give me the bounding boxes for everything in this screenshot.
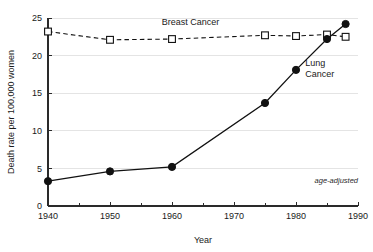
y-tick-label: 15 — [32, 88, 42, 98]
x-tick-label: 1970 — [224, 211, 244, 221]
x-tick-label: 1960 — [162, 211, 182, 221]
data-point — [169, 36, 176, 43]
x-tick-label: 1980 — [286, 211, 306, 221]
x-tick-marks — [48, 202, 358, 206]
series-line — [48, 24, 346, 181]
data-point — [323, 35, 330, 42]
series-lung-cancer — [44, 20, 349, 184]
data-point — [292, 66, 299, 73]
y-tick-label: 25 — [32, 13, 42, 23]
data-point — [107, 36, 114, 43]
series-annotation: Cancer — [305, 69, 334, 79]
axes — [48, 18, 358, 206]
y-tick-label: 5 — [37, 164, 42, 174]
data-point — [342, 33, 349, 40]
series-annotation: Breast Cancer — [162, 17, 220, 27]
x-tick-label: 1950 — [100, 211, 120, 221]
data-point — [44, 178, 51, 185]
line-chart: 194019501960197019801990 0510152025 Brea… — [0, 0, 373, 252]
data-point — [261, 99, 268, 106]
data-point — [293, 33, 300, 40]
y-tick-label: 20 — [32, 51, 42, 61]
series-line — [48, 32, 346, 40]
data-point — [45, 28, 52, 35]
data-point — [168, 163, 175, 170]
y-tick-labels: 0510152025 — [32, 13, 42, 211]
y-tick-label: 0 — [37, 201, 42, 211]
y-tick-label: 10 — [32, 126, 42, 136]
age-adjusted-note: age-adjusted — [315, 176, 359, 185]
series-annotation: Lung — [305, 58, 325, 68]
x-tick-labels: 194019501960197019801990 — [38, 211, 368, 221]
x-tick-label: 1990 — [348, 211, 368, 221]
series-breast-cancer — [45, 28, 349, 43]
data-point — [262, 32, 269, 39]
chart-container: 194019501960197019801990 0510152025 Brea… — [0, 0, 373, 252]
data-point — [342, 20, 349, 27]
y-axis-title: Death rate per 100,000 women — [6, 50, 16, 174]
x-tick-label: 1940 — [38, 211, 58, 221]
data-point — [106, 168, 113, 175]
x-axis-title: Year — [194, 235, 212, 245]
